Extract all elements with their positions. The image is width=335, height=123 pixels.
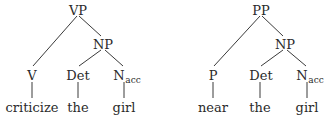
word-head: near — [198, 100, 229, 115]
word-det: the — [249, 100, 271, 115]
syntax-tree-diagram: VP NP V Det N acc criticize the girl PP … — [0, 0, 335, 123]
word-noun: girl — [113, 100, 136, 115]
node-det: Det — [249, 68, 273, 83]
node-det: Det — [66, 68, 90, 83]
word-det: the — [67, 100, 89, 115]
node-pp: PP — [252, 3, 270, 18]
node-p: P — [209, 68, 218, 83]
node-vp: VP — [68, 3, 87, 18]
node-np: NP — [93, 37, 113, 52]
tree-2: PP NP P Det N acc near the girl — [198, 3, 324, 115]
edge-pp-np — [262, 16, 283, 36]
tree-1-edges — [32, 16, 124, 98]
edge-np-det — [79, 50, 101, 66]
node-n: N — [296, 68, 307, 83]
node-np: NP — [275, 37, 295, 52]
edge-np-det — [261, 50, 283, 66]
node-n-subscript: acc — [125, 75, 140, 85]
word-noun: girl — [296, 100, 319, 115]
word-head: criticize — [5, 100, 58, 115]
edge-np-n — [287, 50, 306, 66]
tree-2-edges — [213, 16, 307, 98]
edge-np-n — [105, 50, 123, 66]
edge-vp-v — [33, 16, 77, 66]
edge-pp-p — [214, 16, 260, 66]
node-v: V — [26, 68, 37, 83]
edge-vp-np — [79, 16, 101, 36]
node-n-subscript: acc — [308, 75, 323, 85]
node-n: N — [113, 68, 124, 83]
